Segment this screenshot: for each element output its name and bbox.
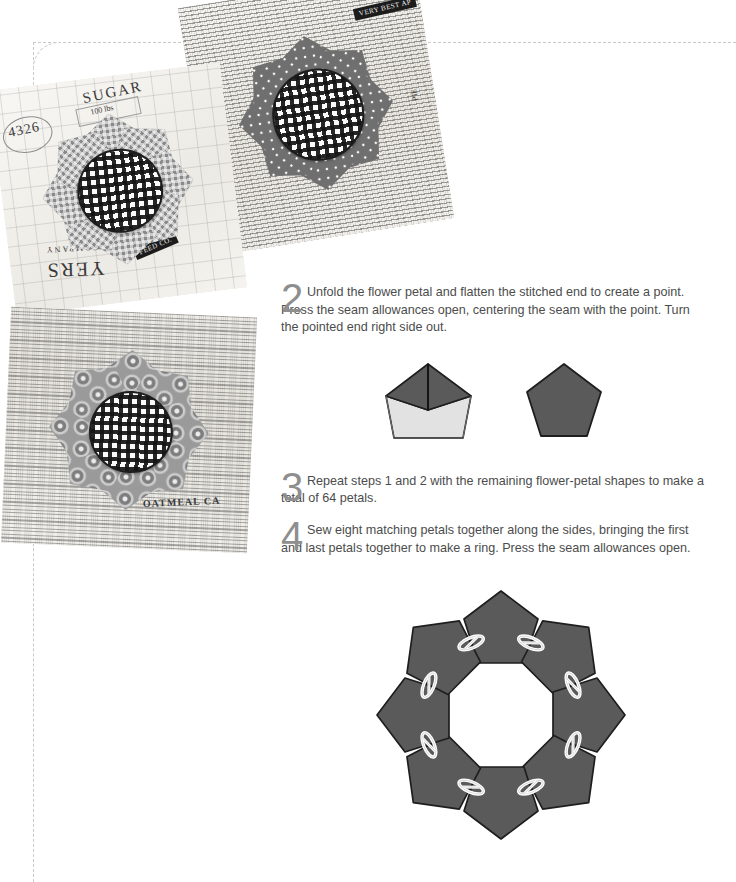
photo-sugar-sack-gingham-block: SUGAR 100 lbs 4326 YERS COMPANY FEED CO. bbox=[0, 63, 247, 316]
folded-petal-diagram bbox=[381, 362, 476, 440]
fabric-flower-gingham bbox=[0, 63, 247, 316]
step-3-text: Repeat steps 1 and 2 with the remaining … bbox=[281, 473, 706, 508]
page-canvas: VERY BEST AP PIE SUGAR 100 lbs 4326 YERS… bbox=[0, 0, 736, 882]
step-2: 2 Unfold the flower petal and flatten th… bbox=[281, 284, 706, 337]
step-3-number: 3 bbox=[281, 467, 307, 507]
finished-pentagon-shape bbox=[527, 364, 601, 436]
instructions-column: 2 Unfold the flower petal and flatten th… bbox=[281, 284, 706, 561]
step-2-number: 2 bbox=[281, 278, 307, 318]
eight-petal-ring-diagram bbox=[358, 583, 644, 848]
step-4-text: Sew eight matching petals together along… bbox=[281, 522, 706, 557]
trim-guide-corner bbox=[33, 42, 60, 69]
step-3: 3 Repeat steps 1 and 2 with the remainin… bbox=[281, 473, 706, 508]
photo-oatmeal-medallion-block: OATMEAL CA bbox=[1, 307, 257, 554]
fabric-flower-medallion bbox=[1, 307, 257, 554]
step-4-number: 4 bbox=[281, 516, 307, 556]
step-2-text: Unfold the flower petal and flatten the … bbox=[281, 284, 706, 337]
finished-pentagon-diagram bbox=[525, 362, 603, 440]
fabric-stamp-pie: PIE bbox=[409, 88, 420, 101]
step-4: 4 Sew eight matching petals together alo… bbox=[281, 522, 706, 557]
